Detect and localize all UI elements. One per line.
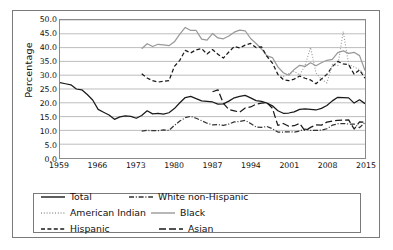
x-tick-label: 1966 (79, 161, 115, 170)
legend-item-hispanic[interactable]: Hispanic (40, 221, 158, 237)
y-tick-label: 5.0 (29, 142, 57, 149)
y-tick-label: 50.0 (29, 16, 57, 23)
x-tick-label: 1987 (195, 161, 231, 170)
series-line-black (142, 27, 365, 75)
legend-item-black[interactable]: Black (150, 205, 238, 221)
x-tick-label: 1994 (233, 161, 269, 170)
plot-area (59, 19, 366, 159)
x-axis-tick-labels: 195919661973198019871994200120082015 (59, 161, 366, 173)
series-line-white-non-hispanic (142, 116, 365, 132)
chart-legend: TotalWhite non-HispanicAmerican IndianBl… (33, 193, 361, 233)
series-line-asian (213, 90, 366, 131)
legend-swatch-icon (128, 192, 154, 202)
x-tick-label: 2008 (310, 161, 346, 170)
y-tick-label: 30.0 (29, 72, 57, 79)
x-tick-label: 1959 (41, 161, 77, 170)
y-tick-label: 45.0 (29, 30, 57, 37)
legend-item-total[interactable]: Total (40, 189, 128, 205)
x-tick-label: 2015 (348, 161, 384, 170)
y-tick-label: 25.0 (29, 86, 57, 93)
legend-swatch-icon (40, 192, 66, 202)
legend-item-asian[interactable]: Asian (158, 221, 268, 237)
y-tick-label: 15.0 (29, 114, 57, 121)
y-tick-label: 40.0 (29, 44, 57, 51)
plot-svg (60, 20, 365, 158)
legend-label: Asian (188, 224, 213, 234)
legend-swatch-icon (40, 208, 66, 218)
legend-swatch-icon (158, 224, 184, 234)
series-line-hispanic (142, 43, 365, 83)
legend-swatch-icon (40, 224, 66, 234)
legend-label: Hispanic (70, 224, 110, 234)
legend-label: American Indian (70, 208, 146, 218)
y-tick-label: 20.0 (29, 100, 57, 107)
chart-frame: Percentage 50.045.040.035.030.025.020.01… (12, 10, 380, 238)
legend-item-american-indian[interactable]: American Indian (40, 205, 150, 221)
series-line-total (60, 83, 365, 120)
x-tick-label: 1973 (118, 161, 154, 170)
y-tick-label: 35.0 (29, 58, 57, 65)
y-axis-tick-labels: 50.045.040.035.030.025.020.015.010.05.00… (29, 19, 57, 159)
x-tick-label: 1980 (156, 161, 192, 170)
y-tick-label: 10.0 (29, 128, 57, 135)
x-tick-label: 2001 (271, 161, 307, 170)
chart-region: Percentage 50.045.040.035.030.025.020.01… (13, 11, 381, 179)
legend-label: White non-Hispanic (158, 192, 248, 202)
legend-swatch-icon (150, 208, 176, 218)
legend-label: Black (180, 208, 205, 218)
legend-label: Total (70, 192, 92, 202)
legend-item-white-non-hispanic[interactable]: White non-Hispanic (128, 189, 246, 205)
